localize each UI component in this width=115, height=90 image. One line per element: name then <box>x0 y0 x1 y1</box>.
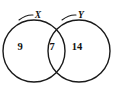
venn-diagram: X Y 9 7 14 <box>0 0 115 90</box>
leader-line-set-y <box>62 15 76 20</box>
region-value-intersection: 7 <box>49 41 54 52</box>
leader-line-set-x <box>19 15 33 20</box>
set-label-x: X <box>34 10 42 20</box>
region-value-x-only: 9 <box>17 41 22 52</box>
circle-set-x <box>3 20 65 82</box>
region-value-y-only: 14 <box>72 41 83 52</box>
venn-diagram-canvas: X Y 9 7 14 <box>0 0 115 90</box>
set-label-y: Y <box>78 10 85 20</box>
